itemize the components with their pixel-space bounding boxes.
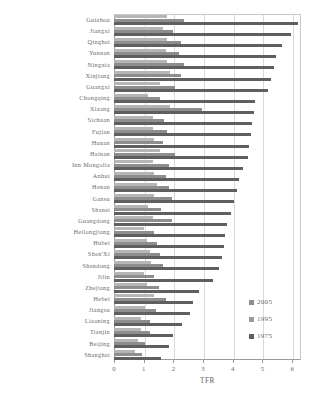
bar-group: [114, 137, 301, 148]
bar-group: [114, 293, 301, 304]
category-label: Jilin: [0, 273, 110, 280]
bar-group: [114, 193, 301, 204]
category-label: Chongqing: [0, 94, 110, 101]
bar-group: [114, 92, 301, 103]
tfr-bar-chart: GuizhouJiangxiQinghaiYunnanNingxiaXinjia…: [0, 0, 314, 413]
legend-swatch-icon-1975: [249, 334, 254, 339]
category-label: Shandong: [0, 262, 110, 269]
tick-mark-3: [203, 360, 204, 363]
bar-group: [114, 260, 301, 271]
tick-label-2: 2: [165, 364, 181, 373]
bar-group: [114, 70, 301, 81]
category-label: Gansu: [0, 195, 110, 202]
category-label: Inn Mongolia: [0, 161, 110, 168]
category-label: Beijing: [0, 340, 110, 347]
category-label: Zhejiang: [0, 284, 110, 291]
category-label: Xinjiang: [0, 72, 110, 79]
bar-group: [114, 25, 301, 36]
legend-swatch-icon-2005: [249, 300, 254, 305]
legend-label-1975: 1975: [257, 331, 272, 341]
tick-label-1: 1: [136, 364, 152, 373]
bar-group: [114, 237, 301, 248]
category-label: Tianjin: [0, 328, 110, 335]
tick-label-6: 6: [284, 364, 300, 373]
bar-group: [114, 271, 301, 282]
bar-group: [114, 204, 301, 215]
category-label: Yunnan: [0, 49, 110, 56]
bar-group: [114, 170, 301, 181]
category-label: Hunan: [0, 139, 110, 146]
bar-group: [114, 36, 301, 47]
category-label: Shan'Xi: [0, 250, 110, 257]
tick-mark-0: [114, 360, 115, 363]
tick-label-5: 5: [254, 364, 270, 373]
bar-group: [114, 248, 301, 259]
tick-mark-5: [262, 360, 263, 363]
legend-label-1995: 1995: [257, 314, 272, 324]
bar-group: [114, 304, 301, 315]
bar-group: [114, 315, 301, 326]
category-label: Hubei: [0, 239, 110, 246]
bar-group: [114, 215, 301, 226]
bar-group: [114, 338, 301, 349]
bar-group: [114, 349, 301, 360]
category-label: Xizang: [0, 105, 110, 112]
category-label: Guangdong: [0, 217, 110, 224]
category-label: Guangxi: [0, 83, 110, 90]
bar-group: [114, 103, 301, 114]
category-label: Fujian: [0, 128, 110, 135]
category-label: Guizhou: [0, 16, 110, 23]
bar-group: [114, 47, 301, 58]
tick-label-3: 3: [195, 364, 211, 373]
category-label: Shansi: [0, 206, 110, 213]
bar-group: [114, 226, 301, 237]
x-axis-title-text: TFR: [200, 377, 215, 385]
bar-group: [114, 81, 301, 92]
category-label: Sichuan: [0, 116, 110, 123]
category-label: Hebei: [0, 295, 110, 302]
bar-group: [114, 126, 301, 137]
category-label: Jiangxi: [0, 27, 110, 34]
category-label: Jiangsu: [0, 306, 110, 313]
category-label: Henan: [0, 183, 110, 190]
category-axis-labels: GuizhouJiangxiQinghaiYunnanNingxiaXinjia…: [0, 14, 110, 360]
tick-mark-4: [233, 360, 234, 363]
category-label: Hainan: [0, 150, 110, 157]
tick-label-4: 4: [225, 364, 241, 373]
tick-mark-1: [144, 360, 145, 363]
legend-swatch-icon-1995: [249, 317, 254, 322]
bar-group: [114, 181, 301, 192]
bar-group: [114, 114, 301, 125]
tick-label-0: 0: [106, 364, 122, 373]
category-label: Heilongjiang: [0, 228, 110, 235]
bar-group: [114, 14, 301, 25]
category-label: Ningxia: [0, 61, 110, 68]
bar-group: [114, 148, 301, 159]
bar-rows-container: [114, 14, 301, 360]
category-label: Anhui: [0, 172, 110, 179]
tick-mark-2: [173, 360, 174, 363]
bar-group: [114, 59, 301, 70]
category-label: Qinghai: [0, 38, 110, 45]
category-label: Shanghai: [0, 351, 110, 358]
bar-group: [114, 159, 301, 170]
bar-group: [114, 282, 301, 293]
tick-mark-6: [292, 360, 293, 363]
x-axis-title: TFR: [0, 377, 314, 385]
legend-label-2005: 2005: [257, 297, 272, 307]
bar-group: [114, 327, 301, 338]
category-label: Liaoning: [0, 317, 110, 324]
